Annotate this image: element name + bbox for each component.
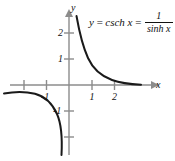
curve-negative-branch [4, 92, 62, 155]
equation-lhs: y [88, 17, 95, 28]
equation-fraction: 1 sinh x [145, 11, 173, 34]
equation-csch-term: csch x [104, 17, 133, 28]
equation-equals-first: = [95, 17, 104, 28]
y-axis-name: y [71, 3, 75, 13]
fraction-denominator: sinh x [145, 23, 173, 34]
x-axis [10, 80, 152, 90]
x-axis-name: x [156, 80, 160, 90]
equation-equals-second: = [134, 17, 143, 28]
csch-function-graph-figure: y = csch x = 1 sinh x -1 1 2 2 1 -1 x y [0, 0, 175, 161]
equation-label: y = csch x = 1 sinh x [88, 11, 173, 34]
y-tick-label-2: 2 [58, 28, 63, 38]
x-tick-label-1: 1 [90, 92, 95, 102]
x-tick-label-minus1: -1 [41, 92, 49, 102]
y-tick-label-1: 1 [58, 54, 63, 64]
x-tick-label-2: 2 [112, 92, 117, 102]
fraction-numerator: 1 [153, 11, 164, 22]
y-tick-label-minus1: -1 [53, 106, 61, 116]
